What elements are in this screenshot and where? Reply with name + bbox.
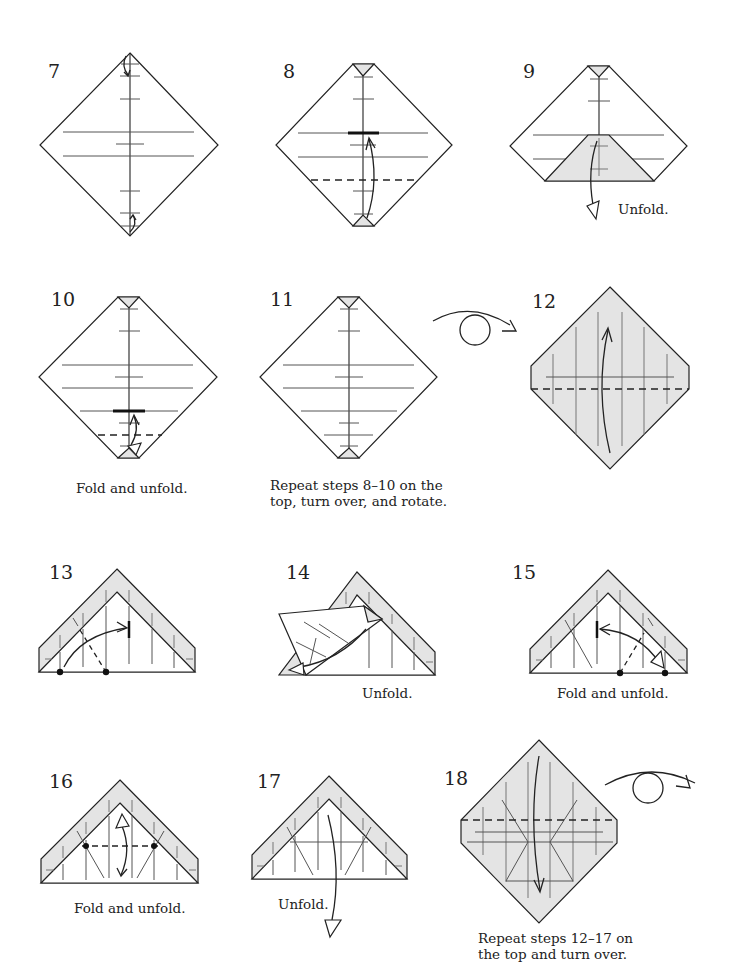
step-17-diagram [230, 730, 450, 974]
step-15: 15 Fold and unfold. [480, 540, 734, 720]
step-11-caption-line-1: Repeat steps 8–10 on the [270, 477, 443, 493]
step-8-diagram [240, 0, 480, 250]
step-18-caption-line-2: the top and turn over. [478, 946, 627, 962]
step-10-diagram [0, 280, 240, 500]
step-9: 9 Unfold. [490, 0, 734, 250]
step-16-caption: Fold and unfold. [74, 900, 185, 916]
step-17-caption: Unfold. [278, 896, 328, 912]
step-14-diagram [240, 540, 480, 720]
step-7-diagram [0, 0, 240, 250]
step-14-caption: Unfold. [362, 685, 412, 701]
step-13: 13 [0, 540, 240, 720]
step-16-diagram [0, 730, 240, 880]
step-9-diagram [490, 0, 734, 250]
step-8: 8 [240, 0, 480, 250]
step-13-diagram [0, 540, 240, 720]
step-16: 16 Fold and unfold. [0, 730, 240, 880]
step-10-caption: Fold and unfold. [76, 480, 187, 496]
step-12-diagram [420, 280, 734, 500]
turn-over-icon [600, 750, 720, 820]
step-9-caption: Unfold. [618, 201, 668, 217]
step-17: 17 Unfold. [230, 730, 450, 974]
step-10: 10 Fold and unfold. [0, 280, 240, 500]
step-14: 14 Unfold. [240, 540, 480, 720]
step-15-caption: Fold and unfold. [557, 685, 668, 701]
step-18-caption-line-1: Repeat steps 12–17 on [478, 930, 633, 946]
step-12: 12 [420, 280, 734, 500]
step-7: 7 [0, 0, 240, 250]
